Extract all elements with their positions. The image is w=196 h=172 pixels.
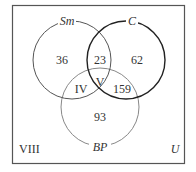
set-label-sm: Sm — [60, 14, 75, 28]
region-sm-bp: IV — [75, 82, 88, 96]
universe-label: U — [171, 142, 181, 156]
region-sm-c: 23 — [94, 53, 106, 67]
set-label-bp: BP — [93, 140, 108, 154]
venn-diagram: Sm C BP 36 23 62 IV V 159 93 VIII U — [0, 0, 196, 172]
region-sm-only: 36 — [56, 53, 68, 67]
region-bp-only: 93 — [94, 110, 106, 124]
region-outside: VIII — [19, 142, 40, 156]
region-c-bp: 159 — [113, 82, 131, 96]
region-c-only: 62 — [131, 53, 143, 67]
region-all-three: V — [96, 75, 105, 89]
set-label-c: C — [128, 14, 137, 28]
